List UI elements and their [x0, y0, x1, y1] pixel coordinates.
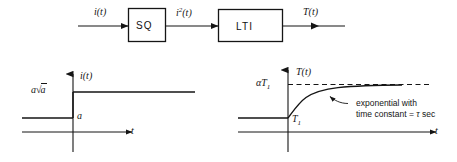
initial-level-subscript: 1 — [298, 119, 302, 127]
annotation-leader-line — [330, 97, 348, 104]
asymptote-subscript: 1 — [267, 83, 271, 91]
exponential-annotation-line-1: exponential with — [356, 98, 417, 109]
left-plot-lower-level-label: a — [77, 111, 82, 121]
squarer-block-label: SQ — [136, 20, 153, 31]
right-plot-x-axis-label: t — [435, 126, 438, 136]
left-plot-y-axis-label: i(t) — [80, 71, 92, 81]
right-plot-y-axis-label: T(t) — [296, 67, 311, 77]
output-signal-label: T(t) — [303, 7, 318, 17]
intermediate-signal-label: i2(t) — [176, 7, 192, 18]
input-signal-label: i(t) — [94, 7, 106, 17]
annotation-suffix: sec — [420, 109, 436, 119]
exponential-annotation-line-2: time constant = τ sec — [356, 109, 435, 120]
output-arrowhead — [311, 23, 319, 30]
left-plot-upper-level-label: a√a — [31, 85, 47, 95]
right-plot-initial-level-label: T1 — [292, 114, 301, 127]
intermediate-signal-arg: (t) — [182, 7, 191, 18]
left-plot-group — [22, 74, 195, 152]
figure-drawing — [0, 0, 457, 162]
left-plot-x-axis-label: t — [131, 126, 134, 136]
annotation-prefix: time constant = — [356, 109, 416, 119]
figure-container: i(t) SQ i2(t) LTI T(t) i(t) t a√a a T(t)… — [0, 0, 457, 162]
upper-level-radicand: a — [41, 83, 47, 95]
lti-block-label: LTI — [236, 21, 253, 32]
right-plot-asymptote-label: αT1 — [256, 78, 270, 91]
